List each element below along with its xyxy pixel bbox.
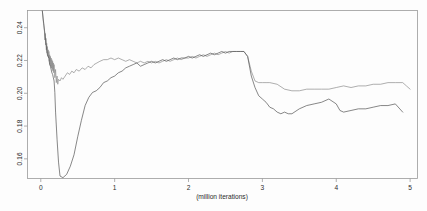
series-lower — [42, 11, 402, 178]
y-axis-ticks: 0.160.180.200.220.24 — [16, 21, 27, 166]
x-axis-title: (million iterations) — [196, 193, 248, 201]
x-tick-label: 2 — [187, 184, 191, 191]
series-upper — [42, 10, 410, 91]
x-tick-label: 5 — [408, 184, 412, 191]
y-tick-label: 0.22 — [16, 54, 23, 67]
data-series-group — [42, 10, 410, 178]
y-tick-label: 0.18 — [16, 119, 23, 132]
x-tick-label: 1 — [113, 184, 117, 191]
x-axis-ticks: 012345 — [39, 179, 412, 191]
chart-plot-svg: 0.160.180.200.220.24 012345 (million ite… — [0, 0, 427, 211]
y-tick-label: 0.16 — [16, 152, 23, 165]
x-tick-label: 0 — [39, 184, 43, 191]
chart-container: 0.160.180.200.220.24 012345 (million ite… — [0, 0, 427, 211]
y-tick-label: 0.24 — [16, 21, 23, 34]
x-tick-label: 4 — [334, 184, 338, 191]
x-tick-label: 3 — [261, 184, 265, 191]
plot-frame — [28, 11, 418, 179]
y-tick-label: 0.20 — [16, 86, 23, 99]
